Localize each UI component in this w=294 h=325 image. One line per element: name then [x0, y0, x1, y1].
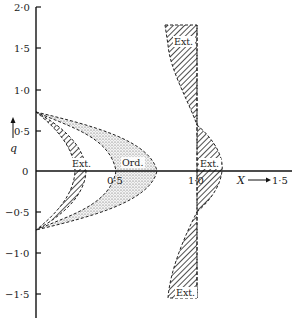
- x-tick-0.5: 0·5: [107, 175, 123, 186]
- x-axis-label: X: [236, 174, 246, 187]
- y-tick-neg1.0: −1·0: [5, 248, 29, 259]
- ord-label: Ord.: [122, 157, 143, 168]
- y-tick-1.0: 1·0: [14, 85, 30, 96]
- y-tick-neg0.5: −0·5: [5, 207, 29, 218]
- y-tick-2.0: 2·0: [14, 2, 30, 13]
- x-tick-1.5: 1·5: [272, 175, 288, 186]
- ext-middle-label: Ext.: [200, 158, 219, 169]
- y-axis-label: q: [10, 142, 17, 155]
- y-tick-0.5: 0·5: [14, 126, 30, 137]
- x-tick-1.0: 1·0: [188, 175, 204, 186]
- ext-left-label: Ext.: [72, 158, 91, 169]
- ext-upper-label: Ext.: [174, 36, 193, 47]
- y-tick-1.5: 1·5: [14, 43, 30, 54]
- ext-lower-region: [168, 212, 197, 298]
- y-tick-neg1.5: −1·5: [5, 289, 29, 300]
- y-tick-0: 0: [22, 166, 28, 177]
- y-ticks: [36, 7, 41, 294]
- stability-diagram: 2·0 1·5 1·0 0·5 0 −0·5 −1·0 −1·5 0·5 1·0…: [0, 0, 294, 325]
- ext-lower-label: Ext.: [176, 287, 195, 298]
